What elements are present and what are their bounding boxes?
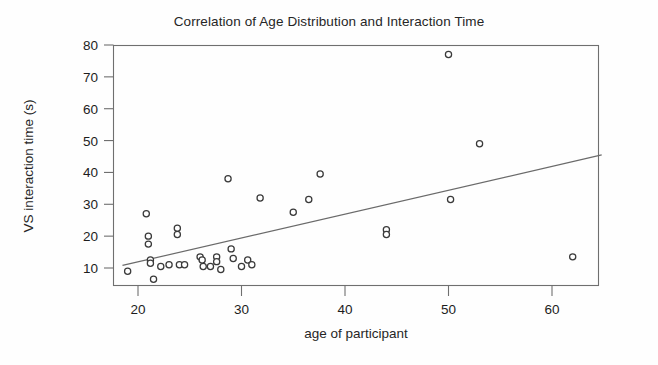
data-point (207, 263, 213, 269)
y-tick-label-70: 70 (83, 70, 98, 85)
data-points-group (125, 51, 576, 282)
data-point (174, 225, 180, 231)
data-point (214, 259, 220, 265)
y-tick-label-50: 50 (83, 134, 98, 149)
y-tick-label-80: 80 (83, 38, 98, 53)
data-point (166, 262, 172, 268)
data-point (445, 51, 451, 57)
data-point (143, 211, 149, 217)
y-axis-title: VS interaction time (s) (21, 100, 36, 233)
data-point (181, 262, 187, 268)
x-tick-label-60: 60 (544, 302, 559, 317)
regression-trendline (122, 155, 601, 266)
data-point (317, 171, 323, 177)
y-tick-label-30: 30 (83, 197, 98, 212)
data-point (290, 209, 296, 215)
data-point (200, 263, 206, 269)
data-point (383, 231, 389, 237)
x-tick-label-20: 20 (130, 302, 145, 317)
plot-canvas: 1020304050607080 2030405060 VS interacti… (0, 0, 658, 365)
y-axis-ticks: 1020304050607080 (83, 38, 114, 276)
data-point (199, 257, 205, 263)
y-tick-label-20: 20 (83, 229, 98, 244)
y-tick-label-40: 40 (83, 165, 98, 180)
scatter-plot-figure: Correlation of Age Distribution and Inte… (0, 0, 658, 365)
data-point (306, 196, 312, 202)
y-tick-label-60: 60 (83, 102, 98, 117)
data-point (125, 268, 131, 274)
data-point (174, 231, 180, 237)
data-point (225, 176, 231, 182)
data-point (570, 254, 576, 260)
data-point (476, 141, 482, 147)
x-axis-title: age of participant (304, 326, 408, 341)
x-tick-label-50: 50 (441, 302, 456, 317)
data-point (230, 255, 236, 261)
data-point (158, 263, 164, 269)
x-axis-ticks: 2030405060 (130, 286, 559, 318)
data-point (147, 260, 153, 266)
data-point (447, 196, 453, 202)
data-point (257, 195, 263, 201)
data-point (249, 262, 255, 268)
data-point (150, 276, 156, 282)
x-tick-label-40: 40 (337, 302, 352, 317)
y-tick-label-10: 10 (83, 261, 98, 276)
x-tick-label-30: 30 (234, 302, 249, 317)
plot-frame (114, 46, 599, 286)
data-point (238, 263, 244, 269)
data-point (228, 246, 234, 252)
data-point (218, 266, 224, 272)
data-point (145, 233, 151, 239)
data-point (145, 241, 151, 247)
